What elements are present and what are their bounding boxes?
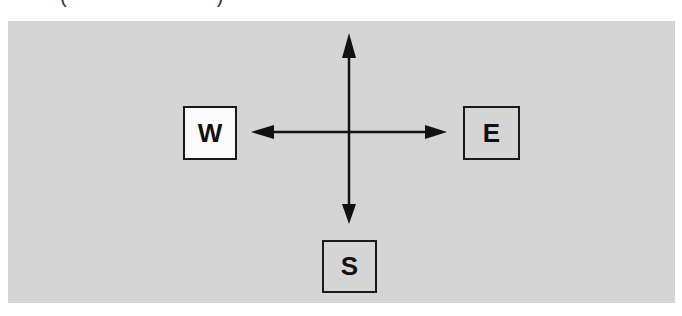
west-label: W xyxy=(198,118,223,149)
east-arrow-icon xyxy=(349,125,447,139)
north-arrow-icon xyxy=(342,33,356,132)
west-label-box: W xyxy=(183,106,237,160)
south-label-box: S xyxy=(322,240,377,293)
south-arrow-icon xyxy=(342,132,356,224)
east-label: E xyxy=(483,118,500,149)
east-label-box: E xyxy=(463,106,520,160)
south-label: S xyxy=(341,251,358,282)
west-arrow-icon xyxy=(251,125,349,139)
